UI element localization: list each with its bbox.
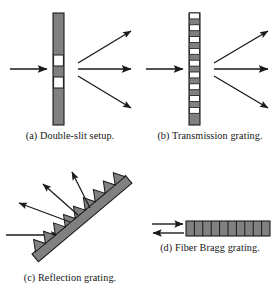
panel-transmission-grating: (b) Transmission grating. xyxy=(140,0,280,150)
grating-substrate xyxy=(32,176,132,262)
panel-double-slit: (a) Double-slit setup. xyxy=(0,0,140,150)
slit-lower xyxy=(54,77,64,88)
diffracted-order-plus-one-arrow xyxy=(214,31,268,63)
caption-panel-d: (d) Fiber Bragg grating. xyxy=(140,242,280,253)
transmission-grating-diagram xyxy=(140,0,280,130)
diffracted-order-minus-one-arrow xyxy=(214,76,268,108)
diffracted-order-minus-one-arrow xyxy=(78,76,131,108)
barrier-with-two-slits xyxy=(53,13,64,125)
panel-fiber-bragg-grating: (d) Fiber Bragg grating. xyxy=(140,150,280,293)
grating-stripes xyxy=(190,13,200,113)
reflected-order-zero-arrow xyxy=(43,184,78,215)
periodic-slit-grating xyxy=(189,13,200,125)
reflection-grating-diagram xyxy=(0,150,140,272)
fiber-bragg-grating-diagram xyxy=(140,150,280,242)
double-slit-diagram xyxy=(0,0,140,130)
caption-panel-c: (c) Reflection grating. xyxy=(0,272,140,283)
caption-panel-a: (a) Double-slit setup. xyxy=(0,130,140,141)
panel-reflection-grating: (c) Reflection grating. xyxy=(0,150,140,293)
reflected-order-plus-one-arrow xyxy=(72,172,90,208)
blazed-sawtooth-surface xyxy=(26,168,132,262)
grating-figure: (a) Double-slit setup. xyxy=(0,0,280,293)
caption-panel-b: (b) Transmission grating. xyxy=(140,130,280,141)
slit-upper xyxy=(54,55,64,66)
reflected-order-minus-one-arrow xyxy=(19,203,70,222)
diffracted-order-plus-one-arrow xyxy=(78,31,131,63)
fiber-core-with-index-modulation xyxy=(186,221,270,236)
